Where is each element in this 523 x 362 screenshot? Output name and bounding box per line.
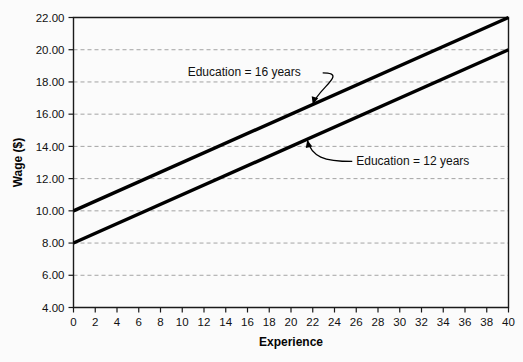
x-tick-label: 14 bbox=[219, 316, 232, 328]
x-tick-label: 18 bbox=[263, 316, 276, 328]
x-tick-label: 40 bbox=[502, 316, 515, 328]
y-tick-label: 8.00 bbox=[42, 237, 64, 249]
x-tick-label: 10 bbox=[176, 316, 189, 328]
x-axis-title: Experience bbox=[259, 335, 323, 349]
x-tick-label: 26 bbox=[350, 316, 363, 328]
x-tick-label: 28 bbox=[372, 316, 385, 328]
y-tick-label: 18.00 bbox=[36, 76, 65, 88]
x-tick-label: 22 bbox=[306, 316, 319, 328]
series-lines bbox=[74, 18, 509, 244]
annotation-label-0: Education = 16 years bbox=[188, 65, 301, 79]
y-tick-labels: 4.006.008.0010.0012.0014.0016.0018.0020.… bbox=[36, 12, 65, 314]
x-tick-label: 30 bbox=[393, 316, 406, 328]
chart-canvas: 0246810121416182022242628303234363840 4.… bbox=[0, 0, 523, 362]
x-tick-label: 36 bbox=[459, 316, 472, 328]
x-tick-label: 38 bbox=[480, 316, 493, 328]
x-tick-label: 2 bbox=[92, 316, 98, 328]
x-tick-label: 24 bbox=[328, 316, 341, 328]
y-tick-label: 10.00 bbox=[36, 205, 65, 217]
y-tick-label: 22.00 bbox=[36, 12, 65, 24]
y-tick-label: 14.00 bbox=[36, 141, 65, 153]
y-tick-label: 20.00 bbox=[36, 44, 65, 56]
x-tick-label: 12 bbox=[198, 316, 211, 328]
x-tick-label: 0 bbox=[70, 316, 76, 328]
x-tick-labels: 0246810121416182022242628303234363840 bbox=[70, 316, 515, 328]
annotation-label-1: Education = 12 years bbox=[356, 154, 469, 168]
x-tick-label: 16 bbox=[241, 316, 254, 328]
x-tick-label: 32 bbox=[415, 316, 428, 328]
x-tick-label: 6 bbox=[136, 316, 142, 328]
y-tick-label: 4.00 bbox=[42, 302, 64, 314]
x-tick-label: 34 bbox=[437, 316, 450, 328]
wage-experience-chart: 0246810121416182022242628303234363840 4.… bbox=[0, 0, 523, 362]
y-axis-title: Wage ($) bbox=[11, 138, 25, 188]
annotation-leader-1 bbox=[307, 140, 352, 161]
y-tick-label: 6.00 bbox=[42, 269, 64, 281]
x-tick-label: 4 bbox=[114, 316, 121, 328]
x-tick-label: 20 bbox=[285, 316, 298, 328]
annotations: Education = 16 yearsEducation = 12 years bbox=[188, 65, 470, 168]
y-tick-label: 12.00 bbox=[36, 173, 65, 185]
x-tick-label: 8 bbox=[157, 316, 163, 328]
y-tick-label: 16.00 bbox=[36, 108, 65, 120]
